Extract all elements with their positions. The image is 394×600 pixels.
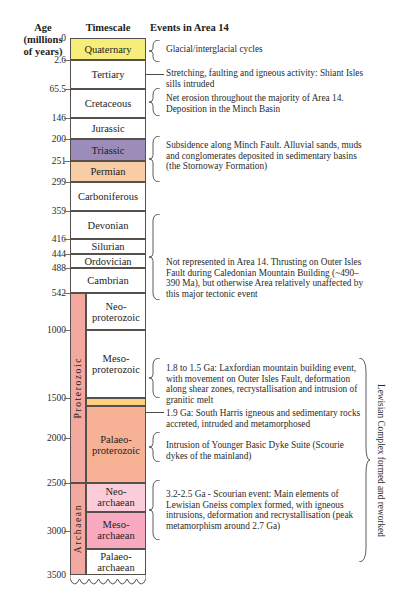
event-brace-scourian [148, 480, 162, 540]
lewisian-complex-annotation: Lewisian Complex formed and reworked [372, 360, 390, 560]
event-brace-glacial [148, 40, 162, 62]
event-text-laxfordian: 1.8 to 1.5 Ga: Laxfordian mountain build… [166, 363, 366, 405]
timescale-band-cretaceous[interactable]: Cretaceous [70, 89, 146, 118]
age-tick-label: 542 [6, 288, 66, 298]
timescale-band-palaeo-proterozoic[interactable]: Palaeo-proterozoic [86, 406, 146, 483]
event-brace-minch [148, 88, 162, 116]
event-brace-laxfordian [148, 358, 162, 398]
timescale-band-label: Palaeo- [100, 434, 132, 445]
lewisian-brace [357, 358, 371, 562]
timescale-band-permian[interactable]: Permian [70, 161, 146, 182]
timescale-column-header: Timescale [70, 22, 146, 34]
timescale-band-label: proterozoic [92, 445, 140, 456]
timescale-band-label: proterozoic [92, 312, 140, 323]
timescale-band-silurian[interactable]: Silurian [70, 239, 146, 254]
eon-spine-archaean[interactable]: Archaean [70, 483, 86, 575]
event-text-southharris: 1.9 Ga: South Harris igneous and sedimen… [166, 408, 366, 429]
timescale-band-label: Meso- [103, 519, 130, 530]
timescale-band-label: Neo- [106, 486, 127, 497]
lewisian-complex-label: Lewisian Complex formed and reworked [376, 384, 386, 537]
age-tick-label: 444 [6, 249, 66, 259]
eon-spine-label: Proterozoic [73, 357, 83, 418]
event-text-minch: Net erosion throughout the majority of A… [166, 93, 366, 114]
timescale-band-label: Ordovician [84, 256, 131, 267]
timescale-band-label: archaean [97, 530, 134, 541]
event-leader-shiant [146, 74, 164, 75]
timescale-band-quaternary[interactable]: Quaternary [70, 38, 146, 60]
age-tick-label: 359 [6, 206, 66, 216]
wavy-bottom-edge [70, 575, 146, 591]
timescale-column: QuaternaryTertiaryCretaceousJurassicTria… [70, 38, 146, 583]
age-tick-label: 200 [6, 134, 66, 144]
timescale-band-label: Neo- [106, 301, 127, 312]
event-text-scourie: Intrusion of Younger Basic Dyke Suite (S… [166, 440, 366, 461]
event-brace-caledonian [148, 214, 162, 300]
timescale-band-palaeo-archaean[interactable]: Palaeo-archaean [86, 549, 146, 575]
eon-spine-label: Archaean [73, 504, 83, 553]
timescale-band-devonian[interactable]: Devonian [70, 211, 146, 239]
age-tick-label: 0 [6, 33, 66, 43]
timescale-band-label: archaean [97, 497, 134, 508]
event-leader-southharris [146, 412, 164, 413]
age-tick-label: 1000 [6, 325, 66, 335]
geological-timescale-figure: Age (millions of years) Timescale Events… [0, 0, 394, 600]
timescale-band-cambrian[interactable]: Cambrian [70, 268, 146, 293]
timescale-band-triassic[interactable]: Triassic [70, 139, 146, 161]
age-tick-label: 146 [6, 113, 66, 123]
timescale-band-neo-proterozoic[interactable]: Neo-proterozoic [86, 293, 146, 330]
event-text-glacial: Glacial/interglacial cycles [166, 44, 366, 55]
timescale-band-jurassic[interactable]: Jurassic [70, 118, 146, 139]
event-text-shiant: Stretching, faulting and igneous activit… [166, 68, 366, 89]
events-column-header: Events in Area 14 [150, 22, 310, 34]
eon-spine-proterozoic[interactable]: Proterozoic [70, 293, 86, 483]
age-tick-label: 251 [6, 156, 66, 166]
timescale-band-label: Palaeo- [100, 551, 132, 562]
timescale-band-meso-proterozoic[interactable]: Meso-proterozoic [86, 330, 146, 398]
timescale-band-label: proterozoic [92, 364, 140, 375]
timescale-band-laxfordian-highlight[interactable] [86, 398, 146, 406]
timescale-band-label: Permian [91, 166, 126, 177]
timescale-band-neo-archaean[interactable]: Neo-archaean [86, 483, 146, 512]
age-tick-label: 2000 [6, 433, 66, 443]
timescale-band-label: Devonian [88, 220, 129, 231]
age-tick-label: 3500 [6, 570, 66, 580]
timescale-band-carboniferous[interactable]: Carboniferous [70, 182, 146, 211]
timescale-band-label: Silurian [91, 241, 124, 252]
event-text-caledonian: Not represented in Area 14. Thrusting on… [166, 257, 366, 299]
age-tick-label: 65.5 [6, 84, 66, 94]
timescale-band-label: Triassic [92, 145, 125, 156]
event-brace-scourie [148, 432, 162, 462]
event-text-stornoway: Subsidence along Minch Fault. Alluvial s… [166, 140, 366, 172]
age-tick-label: 488 [6, 263, 66, 273]
timescale-band-label: Cretaceous [85, 98, 132, 109]
timescale-band-label: Carboniferous [78, 191, 138, 202]
age-tick-label: 2.6 [6, 55, 66, 65]
age-axis: 02.665.514620025129935941644448854210001… [0, 0, 70, 600]
timescale-band-label: archaean [97, 562, 134, 573]
timescale-band-ordovician[interactable]: Ordovician [70, 254, 146, 268]
age-tick-label: 3000 [6, 526, 66, 536]
timescale-band-label: Quaternary [84, 44, 131, 55]
timescale-band-meso-archaean[interactable]: Meso-archaean [86, 512, 146, 549]
event-text-scourian: 3.2-2.5 Ga - Scourian event: Main elemen… [166, 489, 366, 531]
timescale-band-label: Tertiary [91, 69, 124, 80]
age-tick-label: 2500 [6, 478, 66, 488]
age-tick-label: 416 [6, 234, 66, 244]
timescale-band-label: Meso- [103, 353, 130, 364]
timescale-band-tertiary[interactable]: Tertiary [70, 60, 146, 89]
age-tick-label: 1500 [6, 393, 66, 403]
timescale-band-label: Cambrian [87, 275, 128, 286]
event-brace-stornoway [148, 136, 162, 182]
age-tick-label: 299 [6, 177, 66, 187]
timescale-band-label: Jurassic [91, 123, 124, 134]
